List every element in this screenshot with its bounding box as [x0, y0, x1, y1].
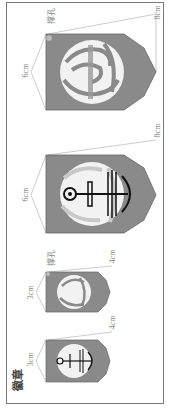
large-swirl-height-label: 8cm [153, 6, 162, 20]
small-swirl-hole-label: 撑孔 [45, 250, 56, 266]
small-swirl-badge [36, 266, 112, 312]
large-anchor-width-label: 6cm [21, 188, 30, 202]
large-swirl-hole-label: 撑孔 [45, 8, 56, 24]
large-anchor-badge [31, 140, 156, 233]
small-anchor-badge [36, 332, 112, 382]
large-swirl-badge [31, 14, 156, 110]
small-anchor-width-label: 3cm [26, 353, 35, 367]
small-anchor-height-label: 4cm [108, 316, 117, 330]
small-swirl-width-label: 3cm [26, 286, 35, 300]
badge-shapes [0, 0, 169, 410]
large-anchor-height-label: 8cm [153, 124, 162, 138]
small-swirl-height-label: 4cm [108, 250, 117, 264]
large-swirl-width-label: 6cm [21, 64, 30, 78]
badge-diagram: 徽章 6cm 8cm 撑孔 6cm 8cm 3cm 4cm 撑孔 3cm 4cm [0, 0, 169, 410]
diagram-title: 徽章 [9, 369, 25, 391]
